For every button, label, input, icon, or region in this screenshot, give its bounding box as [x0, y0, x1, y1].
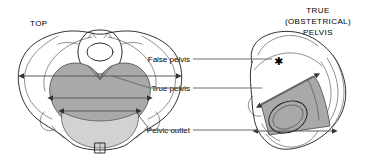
false-pelvis-star-marker: ✱	[274, 55, 283, 68]
right-pelvis-lateral-view: ✱ TRUE (OBSTETRICAL) PELVIS	[248, 6, 351, 149]
right-view-caption-line3: PELVIS	[303, 28, 333, 37]
sacral-ala-right	[122, 43, 142, 45]
right-view-caption-line2: (OBSTETRICAL)	[285, 17, 351, 26]
posterior-rim-1	[330, 55, 344, 129]
right-view-caption-line1: TRUE	[306, 6, 329, 15]
label-false-pelvis: False pelvis	[148, 55, 190, 64]
sacral-ala-left	[58, 43, 78, 45]
left-view-caption: TOP	[30, 19, 48, 28]
iliac-crest-line	[258, 35, 318, 55]
pelvis-anatomy-figure: TOP	[0, 0, 371, 161]
sacral-promontory	[87, 43, 113, 61]
greater-sciatic-notch	[248, 96, 261, 116]
left-acetabulum	[40, 112, 55, 131]
iliac-fossa-line	[254, 53, 322, 70]
true-pelvis-plane-shading	[261, 76, 330, 135]
